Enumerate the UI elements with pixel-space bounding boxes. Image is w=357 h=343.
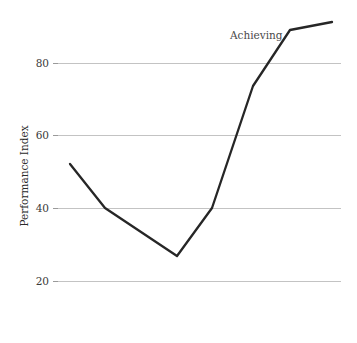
y-tick-label-20: 20 bbox=[36, 275, 49, 287]
y-tick-label-40: 40 bbox=[36, 202, 49, 214]
line-chart: 80 60 40 20 Performance Index Achieving bbox=[0, 0, 357, 343]
y-tick-label-60: 60 bbox=[36, 129, 49, 141]
series-annotation-achieving: Achieving bbox=[229, 29, 283, 41]
y-axis-tick-labels: 80 60 40 20 bbox=[36, 57, 49, 287]
gridlines-group bbox=[58, 64, 341, 282]
series-line-achieving bbox=[70, 22, 332, 256]
y-axis-tick-stubs bbox=[53, 64, 58, 282]
y-tick-label-80: 80 bbox=[36, 57, 49, 69]
y-axis-title: Performance Index bbox=[18, 125, 30, 226]
chart-canvas: 80 60 40 20 Performance Index Achieving bbox=[0, 0, 357, 343]
